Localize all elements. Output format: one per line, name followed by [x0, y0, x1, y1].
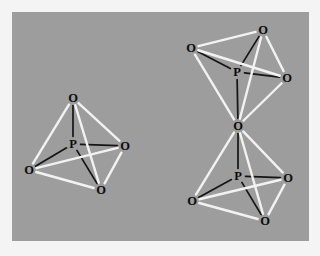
bond-front — [243, 83, 281, 121]
atom-label-o-u_o_left: O — [186, 42, 196, 55]
atom-label-o-l_o_bottom: O — [96, 184, 106, 197]
bond-front — [105, 153, 122, 184]
bond-front — [36, 172, 94, 188]
atom-label-o-d_o_bottom: O — [260, 215, 270, 228]
bond-front — [33, 104, 69, 163]
bond-front — [198, 32, 255, 46]
bond-front — [199, 203, 258, 219]
atom-label-o-u_o_right: O — [282, 72, 292, 85]
atom-label-o-d_o_right: O — [283, 172, 293, 185]
figure-root: OPOOOOOPOOPOOO — [0, 0, 320, 256]
bond-front — [196, 132, 234, 194]
atom-label-p-l_p: P — [69, 138, 77, 151]
atom-label-o-l_o_top: O — [68, 92, 78, 105]
bond-front — [266, 37, 283, 72]
atom-label-o-d_o_left: O — [187, 195, 197, 208]
atom-label-o-u_o_top: O — [258, 24, 268, 37]
diagram-panel: OPOOOOOPOOPOOO — [12, 12, 309, 241]
atom-label-o-l_o_left: O — [24, 164, 34, 177]
bond-canvas — [12, 12, 309, 241]
bond-back — [245, 176, 280, 177]
atom-label-p-u_p: P — [233, 66, 241, 79]
bond-front — [195, 54, 234, 119]
atom-label-p-d_p: P — [234, 170, 242, 183]
atom-label-o-br_o: O — [233, 120, 243, 133]
atom-label-o-l_o_right: O — [120, 140, 130, 153]
bond-front — [269, 185, 285, 215]
bond-back — [237, 79, 238, 118]
